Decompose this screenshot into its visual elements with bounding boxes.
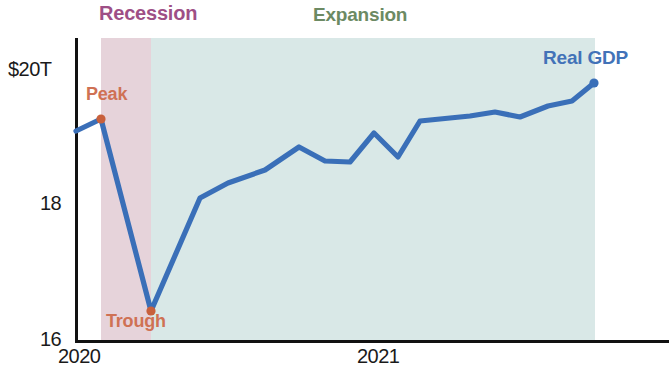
- x-axis-tick-2021: 2021: [357, 345, 400, 368]
- expansion-label: Expansion: [313, 4, 407, 26]
- trough-label: Trough: [106, 311, 166, 332]
- peak-marker-dot: [96, 114, 105, 123]
- peak-label: Peak: [86, 84, 127, 105]
- real-gdp-end-dot: [589, 78, 598, 87]
- real-gdp-series-label: Real GDP: [543, 47, 628, 69]
- gdp-recession-expansion-chart: Recession Expansion Peak Trough Real GDP…: [0, 0, 669, 371]
- y-axis-tick-18: 18: [40, 192, 61, 215]
- y-axis-tick-20t: $20T: [8, 58, 52, 81]
- recession-label: Recession: [99, 2, 197, 25]
- x-axis-tick-2020: 2020: [58, 345, 101, 368]
